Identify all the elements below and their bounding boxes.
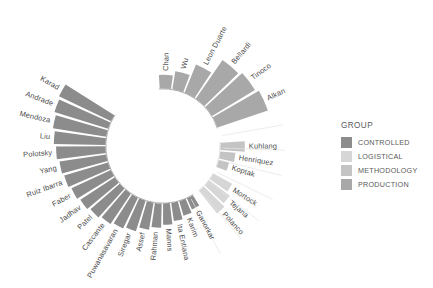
bar-category-label: Karad <box>39 74 61 92</box>
legend-items: CONTROLLEDLOGISTICALMETHODOLOGYPRODUCTIO… <box>341 137 417 190</box>
legend-item[interactable]: CONTROLLED <box>341 137 417 148</box>
legend-item-label: PRODUCTION <box>358 180 409 189</box>
bar-category-label: Andrade <box>24 89 54 108</box>
bar-category-label: Assef <box>134 231 147 253</box>
bar-category-label: Faber <box>51 191 73 209</box>
bar-category-label: Yang <box>39 163 58 175</box>
bar-category-label: Tinoco <box>249 61 273 82</box>
bar-category-label: Leon Duarte <box>201 25 229 67</box>
bar-category-label: Liu <box>40 131 51 141</box>
bar-category-label: Chan <box>161 52 171 71</box>
legend-item-label: METHODOLOGY <box>358 166 417 175</box>
legend-item[interactable]: METHODOLOGY <box>341 165 417 176</box>
radial-bar-chart: KaradAndradeMendozaLiuPolotskyYangRuiz I… <box>0 0 433 288</box>
radial-guide-line <box>222 125 283 136</box>
legend-title: GROUP <box>341 114 417 132</box>
bar-category-label: Wu <box>179 57 191 70</box>
bar-category-label: Koptak <box>231 163 257 179</box>
bar-category-label: Siregar <box>116 231 133 258</box>
legend: GROUP CONTROLLEDLOGISTICALMETHODOLOGYPRO… <box>341 114 417 193</box>
bar-category-label: Manns <box>164 228 174 252</box>
legend-item[interactable]: PRODUCTION <box>341 179 417 190</box>
bar-category-label: Alkan <box>265 86 286 102</box>
legend-swatch <box>341 179 352 190</box>
bar-category-label: Rahman <box>149 231 160 260</box>
legend-item[interactable]: LOGISTICAL <box>341 151 417 162</box>
bar-category-label: Henriquez <box>238 153 274 167</box>
radial-bar[interactable] <box>151 203 161 228</box>
legend-title-text: GROUP <box>341 121 373 130</box>
radial-bar[interactable] <box>163 203 172 225</box>
radial-bar[interactable] <box>220 141 244 151</box>
bar-category-label: Polotsky <box>23 148 53 159</box>
bar-category-label: Kuhlang <box>249 141 277 150</box>
radial-bar[interactable] <box>159 75 173 89</box>
legend-swatch <box>341 165 352 176</box>
legend-item-label: CONTROLLED <box>358 138 410 147</box>
legend-swatch <box>341 137 352 148</box>
radial-bar[interactable] <box>217 160 230 171</box>
bar-category-label: Patel <box>75 213 94 232</box>
bar-category-label: Bellardi <box>229 40 253 66</box>
legend-swatch <box>341 151 352 162</box>
bar-category-label: Mendoza <box>19 109 52 125</box>
legend-item-label: LOGISTICAL <box>358 152 403 161</box>
